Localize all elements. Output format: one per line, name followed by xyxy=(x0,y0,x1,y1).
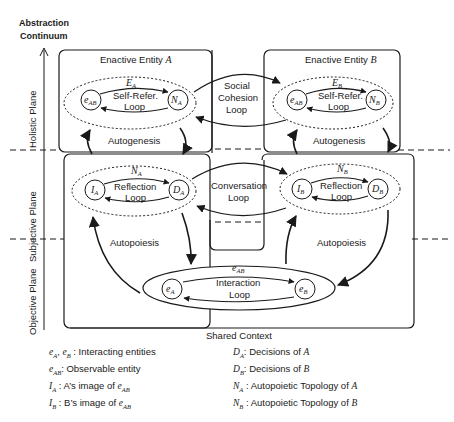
subjective-b-label: NB xyxy=(336,163,348,175)
self-refer-loop-b-l2: Loop xyxy=(328,101,349,112)
reflection-loop-b-l2: Loop xyxy=(331,191,352,202)
legend-right: DA: Decisions of A DB: Decisions of B NA… xyxy=(233,345,357,413)
axis-title-line1: Abstraction xyxy=(19,18,69,28)
legend-item: NB : Autopoietic Topology of B xyxy=(233,396,357,413)
shared-context-label: Shared Context xyxy=(206,330,272,341)
holistic-a-label: EA xyxy=(125,77,136,89)
legend-item: NA : Autopoietic Topology of A xyxy=(233,379,357,396)
interaction-loop-l1: Interaction xyxy=(216,277,260,288)
objective-label: eAB xyxy=(232,262,244,274)
social-cohesion-l1: Social xyxy=(224,80,250,91)
autopoiesis-b: Autopoiesis xyxy=(317,237,366,248)
legend-item: eA, eB : Interacting entities xyxy=(49,345,156,362)
enactive-entity-a-title: Enactive Entity A xyxy=(100,54,172,65)
enactive-entity-b-title: Enactive Entity B xyxy=(305,54,377,65)
conversation-loop-l2: Loop xyxy=(228,192,249,203)
interaction-loop-l2: Loop xyxy=(229,289,250,300)
reflection-loop-b-l1: Reflection xyxy=(320,180,362,191)
self-refer-loop-b-l1: Self-Refer. xyxy=(318,90,363,101)
legend-left: eA, eB : Interacting entities eAB: Obser… xyxy=(49,345,156,413)
reflection-loop-a-l2: Loop xyxy=(125,192,146,203)
subjective-a-label: NA xyxy=(130,165,142,177)
legend-item: DB: Decisions of B xyxy=(233,362,357,379)
axis-title-line2: Continuum xyxy=(20,31,68,41)
plane-subjective: Subjective Plane xyxy=(27,191,38,262)
plane-objective: Objective Plane xyxy=(27,268,38,335)
legend-item: eAB: Observable entity xyxy=(49,362,156,379)
self-refer-loop-a-l2: Loop xyxy=(124,101,145,112)
holistic-b-label: EB xyxy=(331,77,342,89)
legend-item: DA: Decisions of A xyxy=(233,345,357,362)
autopoiesis-a: Autopoiesis xyxy=(110,237,159,248)
social-cohesion-l2: Cohesion xyxy=(218,92,258,103)
reflection-loop-a-l1: Reflection xyxy=(114,181,156,192)
autogenesis-b: Autogenesis xyxy=(313,135,366,146)
conversation-loop-l1: Conversation xyxy=(211,180,267,191)
legend-item: IB : B’s image of eAB xyxy=(49,396,156,413)
plane-holistic: Holistic Plane xyxy=(27,90,38,148)
legend-item: IA : A’s image of eAB xyxy=(49,379,156,396)
social-cohesion-l3: Loop xyxy=(226,104,247,115)
conversation-column xyxy=(210,160,264,250)
self-refer-loop-a-l1: Self-Refer. xyxy=(113,90,158,101)
autogenesis-a: Autogenesis xyxy=(108,135,161,146)
